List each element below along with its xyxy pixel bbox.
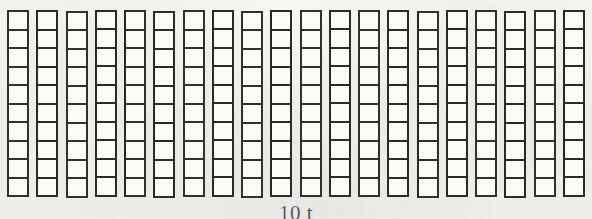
rod-unit-cell: [475, 66, 497, 85]
rod-unit-cell: [95, 158, 117, 177]
rod-unit-cell: [212, 28, 234, 47]
rod-unit-cell: [504, 29, 526, 48]
rod-unit-cell: [124, 177, 146, 198]
rod-unit-cell: [241, 177, 263, 198]
rod-unit-cell: [36, 66, 58, 85]
rod-unit-cell: [475, 121, 497, 140]
rod-unit-cell: [153, 140, 175, 159]
rod-unit-cell: [563, 139, 585, 158]
rod-unit-cell: [95, 176, 117, 197]
rod-unit-cell: [475, 103, 497, 122]
rod-unit-cell: [183, 29, 205, 48]
rod-unit-cell: [300, 177, 322, 198]
rod-unit-cell: [124, 84, 146, 103]
rod-unit-cell: [7, 84, 29, 103]
rod-unit-cell: [183, 140, 205, 159]
rod-unit-cell: [7, 140, 29, 159]
rod-unit-cell: [417, 140, 439, 159]
rod-unit-cell: [95, 121, 117, 140]
rod-unit-cell: [504, 85, 526, 104]
base-ten-diagram: 10 t: [0, 0, 592, 219]
rod-unit-cell: [7, 10, 29, 29]
rod-unit-cell: [329, 139, 351, 158]
rod-unit-cell: [563, 47, 585, 66]
rod-unit-cell: [300, 158, 322, 177]
rod-unit-cell: [153, 29, 175, 48]
rod-unit-cell: [504, 122, 526, 141]
rod-unit-cell: [417, 85, 439, 104]
rod-unit-cell: [534, 121, 556, 140]
rod-unit-cell: [534, 140, 556, 159]
rod-unit-cell: [124, 140, 146, 159]
rod-unit-cell: [153, 122, 175, 141]
rod-unit-cell: [358, 103, 380, 122]
rod-unit-cell: [446, 139, 468, 158]
rod-unit-cell: [124, 158, 146, 177]
rod-unit-cell: [241, 159, 263, 178]
rod-unit-cell: [504, 66, 526, 85]
tens-rod: [7, 10, 29, 197]
tens-rod: [36, 10, 58, 197]
rod-unit-cell: [329, 102, 351, 121]
tens-rod: [387, 10, 409, 197]
rod-unit-cell: [95, 10, 117, 29]
rod-unit-cell: [446, 176, 468, 197]
rod-unit-cell: [95, 47, 117, 66]
tens-rod: [124, 10, 146, 197]
rod-unit-cell: [270, 10, 292, 29]
rod-unit-cell: [534, 103, 556, 122]
rod-unit-cell: [36, 140, 58, 159]
rod-unit-cell: [95, 65, 117, 84]
rod-unit-cell: [417, 11, 439, 30]
rod-unit-cell: [475, 29, 497, 48]
rod-unit-cell: [183, 177, 205, 198]
rod-unit-cell: [270, 84, 292, 103]
rod-unit-cell: [475, 140, 497, 159]
rod-unit-cell: [358, 121, 380, 140]
rod-unit-cell: [329, 28, 351, 47]
tens-rod: [153, 11, 175, 198]
tens-rod: [66, 11, 88, 198]
rod-unit-cell: [417, 122, 439, 141]
rod-unit-cell: [504, 140, 526, 159]
rod-unit-cell: [329, 65, 351, 84]
rod-unit-cell: [212, 84, 234, 103]
rod-unit-cell: [475, 84, 497, 103]
rod-unit-cell: [95, 139, 117, 158]
rod-unit-cell: [417, 29, 439, 48]
rod-unit-cell: [66, 103, 88, 122]
rod-unit-cell: [36, 121, 58, 140]
rod-unit-cell: [475, 177, 497, 198]
rod-unit-cell: [563, 65, 585, 84]
rod-unit-cell: [95, 102, 117, 121]
rod-unit-cell: [300, 10, 322, 29]
tens-rod: [563, 10, 585, 197]
rod-unit-cell: [124, 29, 146, 48]
rod-unit-cell: [387, 158, 409, 177]
rod-unit-cell: [153, 103, 175, 122]
tens-rod: [475, 10, 497, 197]
rod-unit-cell: [504, 48, 526, 67]
rod-unit-cell: [153, 48, 175, 67]
tens-rod: [183, 10, 205, 197]
tens-rod: [504, 11, 526, 198]
rod-unit-cell: [387, 103, 409, 122]
rod-unit-cell: [183, 158, 205, 177]
rod-unit-cell: [124, 66, 146, 85]
rod-unit-cell: [300, 47, 322, 66]
rod-unit-cell: [270, 177, 292, 198]
rod-unit-cell: [475, 10, 497, 29]
rod-unit-cell: [66, 85, 88, 104]
rod-unit-cell: [270, 158, 292, 177]
rod-unit-cell: [446, 84, 468, 103]
rod-unit-cell: [36, 47, 58, 66]
rod-unit-cell: [124, 121, 146, 140]
rod-unit-cell: [36, 84, 58, 103]
rod-unit-cell: [446, 65, 468, 84]
rod-unit-cell: [95, 84, 117, 103]
rod-unit-cell: [241, 103, 263, 122]
rod-unit-cell: [417, 103, 439, 122]
rod-unit-cell: [329, 121, 351, 140]
rod-unit-cell: [66, 122, 88, 141]
rod-unit-cell: [534, 177, 556, 198]
